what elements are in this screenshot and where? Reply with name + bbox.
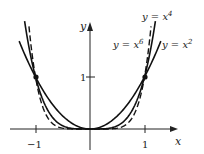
x-tick-label-neg1: −1 (27, 139, 42, 150)
y-axis-label: y (79, 20, 87, 33)
point-neg1-1 (33, 74, 38, 79)
point-1-1 (142, 74, 147, 79)
y-tick-label-1: 1 (80, 72, 86, 83)
label-curve-x6: y = x6 (112, 38, 144, 50)
x-axis-arrow-icon (170, 126, 178, 132)
x-axis-label: x (175, 135, 182, 148)
label-curve-x4: y = x4 (141, 10, 173, 22)
x-tick-label-pos1: 1 (142, 139, 148, 150)
y-axis-arrow-icon (87, 22, 93, 31)
label-curve-x2: y = x2 (161, 38, 193, 50)
chart-canvas: x y −1 1 1 y = x4 y = x6 y = x2 (0, 0, 204, 154)
